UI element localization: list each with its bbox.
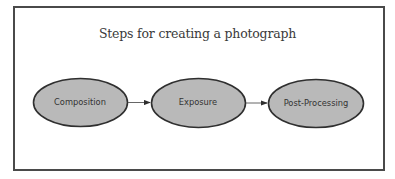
node-post-processing-label: Post-Processing: [266, 98, 366, 108]
node-exposure-label: Exposure: [148, 97, 248, 107]
node-composition-label: Composition: [30, 97, 130, 107]
flow-diagram: [0, 0, 395, 179]
